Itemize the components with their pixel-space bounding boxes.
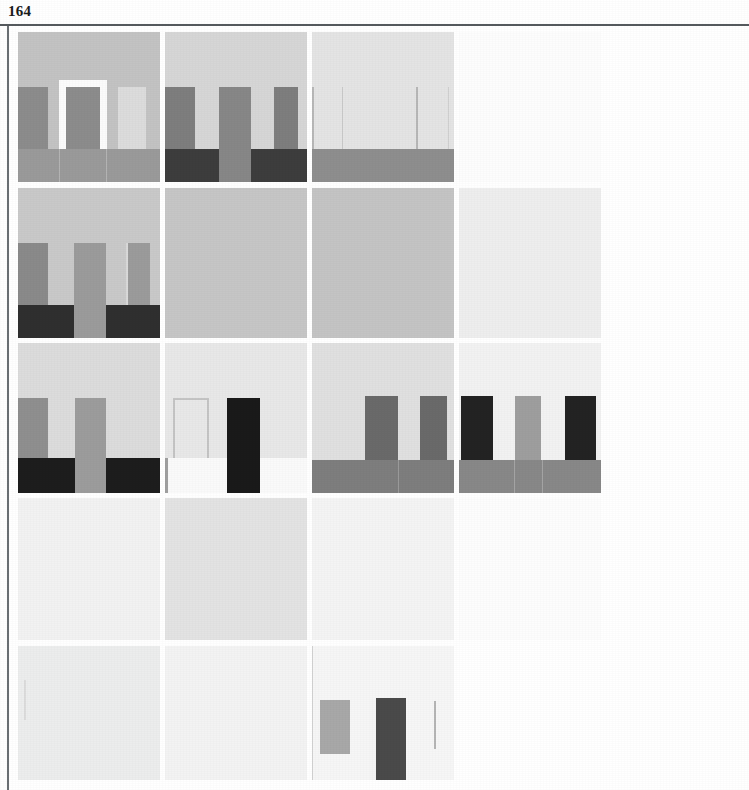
shape-pier-right <box>420 396 447 460</box>
shape-outline-left-edge <box>312 87 314 149</box>
plate-cell-r0c1 <box>165 32 307 182</box>
shape-pier-center <box>75 398 106 493</box>
plate-cell-r3c2 <box>312 498 454 640</box>
shape-plinth <box>312 460 454 493</box>
shape-pier-right <box>126 243 150 305</box>
shape-base-seam-left <box>59 149 60 182</box>
shape-base-left <box>18 305 74 338</box>
shape-base-right <box>106 305 160 338</box>
plate-cell-r3c3 <box>459 498 601 640</box>
plate-cell-r4c0 <box>18 646 160 780</box>
shape-plinth <box>459 460 601 493</box>
shape-pier-right-edge <box>126 243 128 305</box>
shape-pier-right <box>274 87 298 149</box>
plate-cell-r3c0 <box>18 498 160 640</box>
plate-cell-r1c3 <box>459 188 601 338</box>
shape-base-band <box>312 149 454 182</box>
shape-outline-right-edge <box>448 87 449 149</box>
shape-pier-left <box>165 87 195 149</box>
plate-cell-r4c3 <box>459 646 601 780</box>
shape-left-panel <box>18 87 48 149</box>
shape-outline-panel <box>173 398 209 460</box>
shape-pier-black-foot <box>227 458 260 493</box>
shape-pier-left <box>18 398 48 460</box>
plate-grid <box>18 32 638 780</box>
plate-cell-r0c3 <box>459 32 601 182</box>
shape-faint-curve-mark <box>24 680 26 720</box>
plate-cell-r4c1 <box>165 646 307 780</box>
shape-outline-mid-edge <box>416 87 418 149</box>
shape-plinth-seam-right <box>542 460 543 493</box>
plate-cell-r2c2 <box>312 343 454 493</box>
plate-cell-r1c0 <box>18 188 160 338</box>
shape-pier-black-right <box>565 396 596 460</box>
shape-right-light-panel <box>118 87 146 149</box>
plate-cell-r0c0 <box>18 32 160 182</box>
shape-pier-center <box>219 87 251 182</box>
shape-left-edge-rule <box>312 646 313 780</box>
shape-outline-left-right <box>342 87 343 149</box>
plate-cell-r2c0 <box>18 343 160 493</box>
shape-base-right <box>251 149 307 182</box>
page-number: 164 <box>8 2 31 20</box>
plate-cell-r4c2 <box>312 646 454 780</box>
frame-left-rule <box>7 26 9 790</box>
plate-cell-r1c2 <box>312 188 454 338</box>
plate-cell-r1c1 <box>165 188 307 338</box>
shape-pier-left <box>18 243 48 305</box>
plate-cell-r3c1 <box>165 498 307 640</box>
plate-cell-r0c2 <box>312 32 454 182</box>
shape-gray-panel <box>320 700 350 754</box>
shape-left-edge-tick <box>165 458 168 493</box>
frame-top-rule <box>0 24 749 26</box>
shape-base-left <box>18 458 75 493</box>
shape-pier-center <box>74 243 106 338</box>
shape-base-right <box>106 458 160 493</box>
shape-plinth-seam-left <box>514 460 515 493</box>
shape-pier-black-left <box>461 396 493 460</box>
shape-dark-pier <box>376 698 406 780</box>
shape-plinth-seam <box>398 460 399 493</box>
shape-base-band <box>18 149 160 182</box>
plate-cell-r2c3 <box>459 343 601 493</box>
shape-thin-line <box>434 701 436 749</box>
shape-base-seam-right <box>106 149 107 182</box>
shape-base-left <box>165 149 219 182</box>
plate-cell-r2c1 <box>165 343 307 493</box>
